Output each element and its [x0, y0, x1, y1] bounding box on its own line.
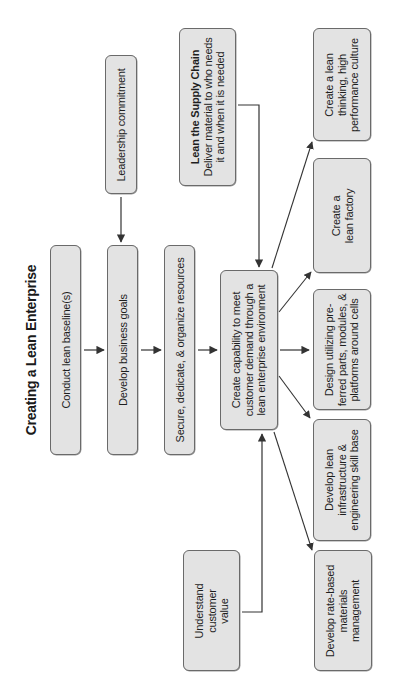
node-text-line: Secure, dedicate, & organize resources — [173, 257, 186, 442]
node-label: Secure, dedicate, & organize resources — [173, 257, 186, 442]
edge-customervalue-to-capability — [242, 434, 262, 612]
node-label: Develop business goals — [116, 294, 129, 406]
node-conduct-baseline: Conduct lean baseline(s) — [50, 245, 81, 455]
node-text-line: Develop business goals — [116, 294, 129, 406]
edge-capability-to-infrastructure — [279, 376, 310, 418]
node-text-line: ferred parts, modules, & — [336, 293, 349, 406]
node-text-line: performance culture — [348, 37, 361, 131]
node-text-line: Create a lean — [323, 37, 336, 131]
node-text-line: thinking, high — [336, 37, 349, 131]
node-label: Leadership commitment — [115, 68, 128, 181]
node-create-capability: Create capability to meet customer deman… — [220, 270, 278, 430]
node-text-line: customer demand through a — [243, 284, 256, 417]
node-label: Design utilizing pre- ferred parts, modu… — [323, 293, 361, 406]
node-text-line: infrastructure & — [336, 429, 349, 530]
node-label: Create a lean thinking, high performance… — [323, 37, 361, 131]
node-label: Conduct lean baseline(s) — [59, 292, 72, 409]
node-text-line: Create a — [330, 188, 343, 242]
node-lean-infrastructure: Develop lean infrastructure & engineerin… — [313, 419, 371, 541]
node-label: Create a lean factory — [330, 188, 355, 242]
node-label: Create capability to meet customer deman… — [230, 284, 268, 417]
node-business-goals: Develop business goals — [107, 245, 138, 455]
node-text-line: management — [349, 564, 362, 656]
node-lean-factory: Create a lean factory — [313, 158, 371, 273]
node-text-line: value — [218, 583, 231, 638]
node-text-line: it and when it is needed — [214, 37, 227, 176]
node-label: Understand customer value — [193, 583, 231, 638]
node-text-line: platforms around cells — [348, 293, 361, 406]
node-text-line: Conduct lean baseline(s) — [59, 292, 72, 409]
lean-enterprise-diagram: Creating a Lean Enterprise Conduct lean … — [0, 0, 395, 692]
node-text-line: materials — [337, 564, 350, 656]
node-text-line: Deliver material to who needs — [201, 37, 214, 176]
node-text-line: engineering skill base — [348, 429, 361, 530]
node-text-line: Design utilizing pre- — [323, 293, 336, 406]
diagram-title: Creating a Lean Enterprise — [23, 265, 39, 435]
node-text-line: lean factory — [342, 188, 355, 242]
node-heading: Lean the Supply Chain — [189, 37, 202, 176]
node-text-line: lean enterprise environment — [255, 284, 268, 417]
edge-capability-to-factory — [279, 272, 311, 312]
edge-capability-to-culture — [272, 142, 312, 268]
node-leadership: Leadership commitment — [105, 55, 137, 194]
node-rate-based: Develop rate-based materials management — [314, 550, 372, 671]
edge-supplychain-to-capability — [238, 105, 259, 267]
node-customer-value: Understand customer value — [183, 550, 240, 671]
node-label: Lean the Supply Chain Deliver material t… — [189, 37, 227, 176]
node-text-line: customer — [205, 583, 218, 638]
node-organize-resources: Secure, dedicate, & organize resources — [164, 245, 195, 455]
node-text-line: Develop rate-based — [324, 564, 337, 656]
node-text-line: Understand — [193, 583, 206, 638]
edge-capability-to-ratebased — [274, 432, 312, 550]
node-text-line: Leadership commitment — [115, 68, 128, 181]
node-lean-culture: Create a lean thinking, high performance… — [313, 28, 371, 141]
node-supply-chain: Lean the Supply Chain Deliver material t… — [179, 28, 236, 186]
node-text-line: Create capability to meet — [230, 284, 243, 417]
node-text-line: Develop lean — [323, 429, 336, 530]
node-design-preferred: Design utilizing pre- ferred parts, modu… — [313, 289, 371, 410]
node-label: Develop lean infrastructure & engineerin… — [323, 429, 361, 530]
node-label: Develop rate-based materials management — [324, 564, 362, 656]
